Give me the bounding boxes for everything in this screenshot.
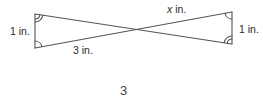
top-right-segment-label: x in. [167,4,186,15]
angle-mark-left-top-double-arc-icon [35,15,43,22]
unit-inches: in. [172,3,186,15]
angle-mark-right-top-single-arc-icon [225,13,232,19]
figure-number: 3 [120,84,127,97]
angle-mark-left-bottom-single-arc-icon [35,41,42,47]
similar-triangles-diagram [0,0,263,101]
left-side-label: 1 in. [10,26,30,37]
diagonal-bottom-left-to-top-right [35,12,232,48]
angle-mark-right-bottom-double-arc-icon [224,36,232,43]
diagonal-top-left-to-bottom-right [35,14,232,44]
bottom-left-segment-label: 3 in. [73,45,93,56]
right-side-label: 1 in. [239,24,259,35]
